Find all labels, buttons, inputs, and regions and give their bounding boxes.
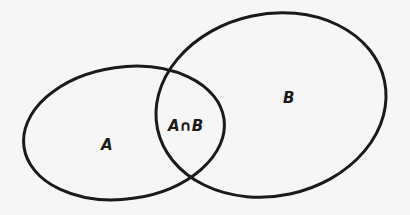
set-b-label: B <box>283 89 294 107</box>
venn-svg: A A∩B B <box>0 0 410 215</box>
set-a-label: A <box>100 136 113 154</box>
set-b-ellipse <box>139 0 404 215</box>
intersection-label: A∩B <box>167 117 203 135</box>
venn-diagram: A A∩B B <box>0 0 410 215</box>
